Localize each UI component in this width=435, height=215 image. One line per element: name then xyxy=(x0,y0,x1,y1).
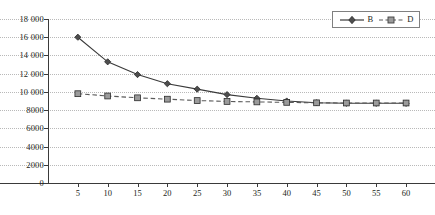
x-tick-label: 25 xyxy=(193,188,202,198)
legend-swatch-d-icon xyxy=(378,15,404,25)
legend-label-b: B xyxy=(368,15,374,24)
data-point-d xyxy=(105,93,111,99)
x-tick-label: 45 xyxy=(312,188,321,198)
line-chart: 0200040006000800010 00012 00014 00016 00… xyxy=(0,0,435,215)
data-point-d xyxy=(373,100,379,106)
x-tick-label: 55 xyxy=(372,188,381,198)
data-point-d xyxy=(344,100,350,106)
data-point-d xyxy=(164,96,170,102)
x-tick-label: 5 xyxy=(76,188,80,198)
x-tick-mark xyxy=(78,183,79,187)
x-tick-mark xyxy=(167,183,168,187)
x-tick-mark xyxy=(287,183,288,187)
data-point-d xyxy=(75,91,81,97)
x-tick-mark xyxy=(197,183,198,187)
x-tick-mark xyxy=(346,183,347,187)
legend-label-d: D xyxy=(407,15,413,24)
legend: B D xyxy=(332,11,420,28)
x-tick-label: 10 xyxy=(103,188,112,198)
data-point-d xyxy=(224,99,230,105)
x-tick-label: 30 xyxy=(223,188,232,198)
data-point-d xyxy=(314,100,320,106)
x-tick-mark xyxy=(138,183,139,187)
series-line-d xyxy=(78,94,406,103)
data-point-d xyxy=(254,99,260,105)
series-line-b xyxy=(78,37,406,103)
x-tick-label: 15 xyxy=(133,188,142,198)
data-point-d xyxy=(284,99,290,105)
x-tick-mark xyxy=(406,183,407,187)
x-tick-mark xyxy=(376,183,377,187)
x-tick-label: 20 xyxy=(163,188,172,198)
data-point-b xyxy=(224,92,230,98)
legend-entry-b[interactable]: B xyxy=(339,15,374,25)
data-point-d xyxy=(403,100,409,106)
x-tick-label: 50 xyxy=(342,188,351,198)
plot-area xyxy=(48,19,421,183)
x-tick-mark xyxy=(257,183,258,187)
x-tick-label: 60 xyxy=(402,188,411,198)
x-tick-mark xyxy=(227,183,228,187)
series-b xyxy=(75,34,409,106)
legend-swatch-b-icon xyxy=(339,15,365,25)
data-point-d xyxy=(194,98,200,104)
x-tick-label: 40 xyxy=(282,188,291,198)
x-tick-label: 35 xyxy=(253,188,262,198)
data-point-b xyxy=(134,71,140,77)
legend-entry-d[interactable]: D xyxy=(378,15,413,25)
data-point-b xyxy=(164,81,170,87)
x-tick-mark xyxy=(317,183,318,187)
data-point-b xyxy=(194,86,200,92)
data-point-d xyxy=(135,95,141,101)
series-layer xyxy=(48,19,421,183)
x-tick-mark xyxy=(108,183,109,187)
